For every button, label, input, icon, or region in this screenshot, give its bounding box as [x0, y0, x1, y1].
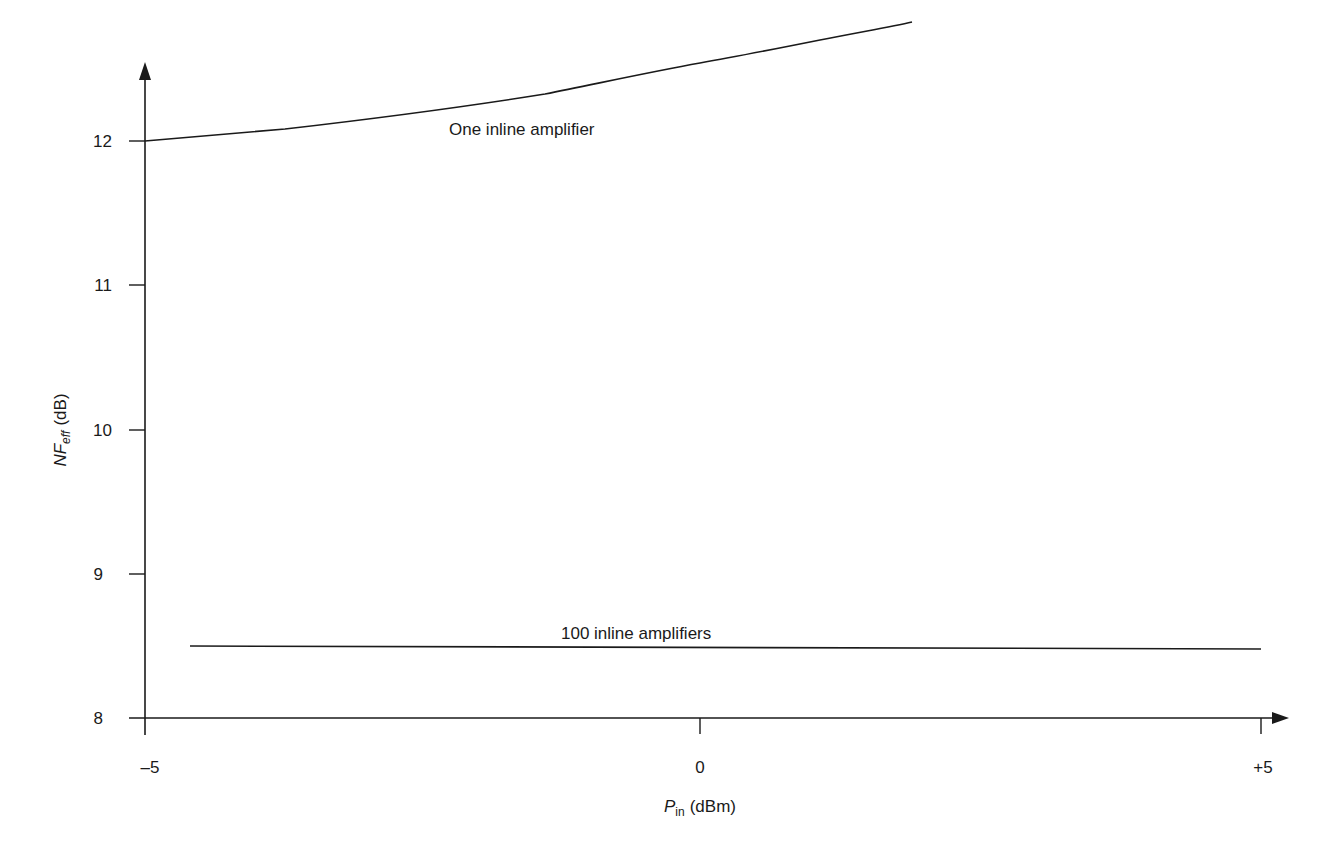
y-tick-label: 12: [93, 132, 112, 151]
x-axis-arrow-icon: [1272, 712, 1289, 724]
annotation-100-inline-amplifiers: 100 inline amplifiers: [561, 624, 711, 643]
y-axis-label-main: NF: [51, 442, 70, 466]
y-tick-label: 8: [94, 709, 103, 728]
y-axis-label-unit: (dB): [51, 393, 70, 425]
x-tick-label: +5: [1253, 758, 1272, 777]
x-tick-label: –5: [141, 758, 160, 777]
y-ticks: [129, 141, 145, 574]
y-axis-label-sub: eff: [59, 429, 73, 444]
x-ticks: [700, 718, 1261, 734]
x-axis-label-main: P: [664, 797, 676, 816]
x-tick-labels: –5 0 +5: [141, 758, 1273, 777]
y-axis-label: NFeff(dB): [51, 393, 73, 466]
y-tick-label: 9: [94, 565, 103, 584]
x-tick-label: 0: [695, 758, 704, 777]
annotation-one-inline-amplifier: One inline amplifier: [449, 120, 595, 139]
chart: 8 9 10 11 12 –5 0 +5 Pin(dBm) NFeff(dB) …: [0, 0, 1327, 846]
x-axis-label: Pin(dBm): [664, 797, 736, 819]
y-axis-arrow-icon: [139, 62, 151, 80]
y-tick-label: 10: [93, 421, 112, 440]
x-axis-label-unit: (dBm): [690, 797, 736, 816]
x-axis-label-sub: in: [675, 805, 684, 819]
y-tick-labels: 8 9 10 11 12: [93, 132, 112, 728]
series-100-inline-amplifiers: [190, 646, 1261, 649]
y-tick-label: 11: [94, 276, 112, 295]
